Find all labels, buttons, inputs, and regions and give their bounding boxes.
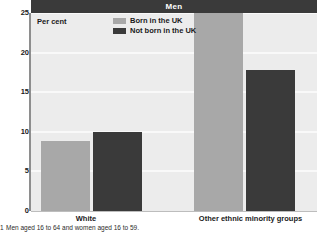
footnote-marker: 1 — [0, 224, 4, 231]
y-axis-line — [29, 13, 31, 211]
gridline — [31, 52, 317, 54]
legend-item-not-born-in-uk: Not born in the UK — [113, 26, 196, 35]
y-axis-tick-15: 15 — [3, 88, 29, 96]
footnote-text: Men aged 16 to 64 and women aged 16 to 5… — [6, 224, 139, 231]
legend-item-born-in-uk: Born in the UK — [113, 16, 196, 25]
bar-not-born-in-uk-group-1 — [246, 70, 295, 211]
plot-area — [31, 13, 317, 211]
y-axis-tick-10: 10 — [3, 128, 29, 136]
bar-born-in-uk-group-1 — [194, 13, 243, 211]
legend-label-born-in-uk: Born in the UK — [130, 16, 183, 25]
chart-title-banner: Men — [31, 0, 317, 13]
y-axis-tick-labels: 0510152025 — [0, 0, 29, 233]
bar-not-born-in-uk-group-0 — [93, 132, 142, 211]
y-axis-tick-0: 0 — [3, 207, 29, 215]
y-axis-tick-5: 5 — [3, 167, 29, 175]
x-axis-category-label-other-ethnic-minority-groups: Other ethnic minority groups — [184, 214, 317, 223]
y-axis-unit-label: Per cent — [37, 17, 67, 26]
y-axis-tick-20: 20 — [3, 49, 29, 57]
legend-label-not-born-in-uk: Not born in the UK — [130, 26, 196, 35]
x-axis-line — [31, 211, 317, 212]
chart-legend: Born in the UK Not born in the UK — [113, 16, 196, 36]
chart-title: Men — [166, 2, 183, 11]
legend-swatch-icon-not-born-in-uk — [113, 28, 126, 34]
y-axis-tick-25: 25 — [3, 9, 29, 17]
x-axis-category-label-white: White — [31, 214, 141, 223]
legend-swatch-icon-born-in-uk — [113, 18, 126, 24]
gridline — [31, 13, 317, 14]
bar-chart-figure: Men 0510152025 Per cent Born in the UK N… — [0, 0, 317, 233]
bar-born-in-uk-group-0 — [41, 141, 90, 211]
